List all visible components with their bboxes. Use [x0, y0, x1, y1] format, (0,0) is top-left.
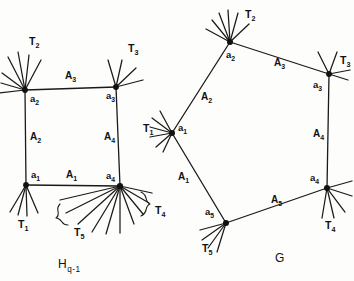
label-h-edge-A2: A2 [30, 131, 41, 144]
label-h-tree-T1: T1 [18, 218, 28, 233]
vertex-g-a4 [324, 185, 330, 191]
label-g-tree-T1: T1 [143, 122, 153, 137]
label-h-vertex-a1: a1 [31, 169, 40, 182]
label-g-vertex-a4: a4 [310, 172, 319, 185]
vertex-g-a2 [227, 39, 233, 45]
label-g-edge-A1: A1 [178, 171, 189, 184]
label-h-tree-T2: T2 [29, 35, 39, 50]
edge-g-A2 [172, 42, 230, 133]
brace-h-T5 [56, 204, 68, 225]
label-h-tree-T4: T4 [155, 204, 165, 219]
vertex-g-a1 [169, 130, 175, 136]
label-g-vertex-a3: a3 [313, 79, 322, 92]
edge-h-A3 [25, 87, 116, 90]
label-g-vertex-a2: a2 [226, 49, 235, 62]
vertex-g-a5 [223, 220, 229, 226]
label-h-vertex-a4: a4 [106, 170, 115, 183]
vertex-h-a1 [23, 182, 29, 188]
label-h-vertex-a2: a2 [30, 93, 39, 106]
label-g-vertex-a5: a5 [205, 206, 214, 219]
graph-h-tree-T1-spokes [10, 185, 38, 216]
vertex-h-a3 [113, 84, 119, 90]
vertex-g-a3 [326, 71, 332, 77]
edge-h-A2 [25, 90, 26, 185]
label-h-edge-A3: A3 [65, 70, 76, 83]
label-h-edge-A1: A1 [66, 169, 77, 182]
graph-h-tree-T3-spokes [108, 60, 143, 87]
label-g-edge-A2: A2 [201, 91, 212, 104]
caption-graph-h: Hq-1 [58, 257, 81, 274]
vertex-h-a2 [22, 87, 28, 93]
label-g-edge-A4: A4 [313, 128, 324, 141]
label-h-tree-T3: T3 [128, 42, 138, 57]
label-g-vertex-a1: a1 [178, 122, 187, 135]
label-g-tree-T2: T2 [245, 8, 255, 23]
label-g-tree-T4: T4 [325, 219, 335, 234]
label-h-tree-T5: T5 [74, 226, 84, 241]
edge-g-A4 [327, 74, 329, 188]
edge-h-A1 [26, 185, 120, 186]
figure-panel: a1 a2 a3 a4 A1 A2 A3 A4 T1 T2 T3 T4 T5 [0, 0, 354, 281]
graph-diagram: a1 a2 a3 a4 A1 A2 A3 A4 T1 T2 T3 T4 T5 [0, 0, 354, 281]
caption-graph-g: G [275, 251, 285, 265]
vertex-h-a4 [117, 183, 123, 189]
edge-h-A4 [116, 87, 120, 186]
graph-h-tree-T2-spokes [0, 52, 41, 93]
label-h-edge-A4: A4 [104, 131, 115, 144]
graph-g-tree-T2-spokes [206, 10, 249, 42]
graph-g-edges [172, 42, 329, 223]
label-h-vertex-a3: a3 [106, 90, 115, 103]
label-g-tree-T3: T3 [340, 54, 350, 69]
